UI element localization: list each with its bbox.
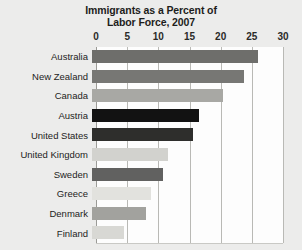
bar-new-zealand <box>92 70 244 83</box>
category-label-sweden: Sweden <box>0 169 92 180</box>
category-label-greece: Greece <box>0 188 92 199</box>
bar-track <box>92 125 302 145</box>
bar-row: Finland <box>0 223 302 243</box>
category-label-united-states: United States <box>0 130 92 141</box>
plot-baseline <box>96 243 283 244</box>
immigrants-labor-force-bar-chart: Immigrants as a Percent of Labor Force, … <box>0 0 302 250</box>
chart-title-line-1: Immigrants as a Percent of <box>85 4 217 16</box>
category-label-new-zealand: New Zealand <box>0 71 92 82</box>
bar-row: Denmark <box>0 204 302 224</box>
category-label-canada: Canada <box>0 90 92 101</box>
category-label-finland: Finland <box>0 228 92 239</box>
bar-row: Sweden <box>0 165 302 185</box>
bar-row: United Kingdom <box>0 145 302 165</box>
category-label-australia: Australia <box>0 51 92 62</box>
bar-track <box>92 184 302 204</box>
bar-canada <box>92 89 223 102</box>
chart-title-line-2: Labor Force, 2007 <box>0 16 302 28</box>
bar-track <box>92 204 302 224</box>
category-label-united-kingdom: United Kingdom <box>0 149 92 160</box>
bar-track <box>92 47 302 67</box>
bar-row: Greece <box>0 184 302 204</box>
bar-row: United States <box>0 125 302 145</box>
bar-track <box>92 67 302 87</box>
category-label-austria: Austria <box>0 110 92 121</box>
bar-australia <box>92 50 258 63</box>
x-tick-label-30: 30 <box>277 31 288 43</box>
x-tick-label-20: 20 <box>215 31 226 43</box>
x-tick-label-25: 25 <box>246 31 257 43</box>
bar-row: Canada <box>0 86 302 106</box>
bar-united-kingdom <box>92 148 168 161</box>
bar-denmark <box>92 207 146 220</box>
bar-united-states <box>92 128 193 141</box>
chart-title: Immigrants as a Percent of Labor Force, … <box>0 4 302 28</box>
x-tick-label-0: 0 <box>93 31 99 43</box>
bar-track <box>92 145 302 165</box>
x-axis-tick-labels: 051015202530 <box>0 31 302 45</box>
category-label-denmark: Denmark <box>0 208 92 219</box>
bar-finland <box>92 226 124 239</box>
bar-track <box>92 223 302 243</box>
bar-row: Australia <box>0 47 302 67</box>
bar-row: New Zealand <box>0 67 302 87</box>
x-tick-label-10: 10 <box>153 31 164 43</box>
x-tick-label-15: 15 <box>184 31 195 43</box>
bar-row: Austria <box>0 106 302 126</box>
bar-sweden <box>92 168 163 181</box>
bar-track <box>92 106 302 126</box>
x-tick-label-5: 5 <box>124 31 130 43</box>
bar-greece <box>92 187 151 200</box>
bar-austria <box>92 109 199 122</box>
bar-track <box>92 86 302 106</box>
bar-track <box>92 165 302 185</box>
bar-rows: AustraliaNew ZealandCanadaAustriaUnited … <box>0 47 302 243</box>
